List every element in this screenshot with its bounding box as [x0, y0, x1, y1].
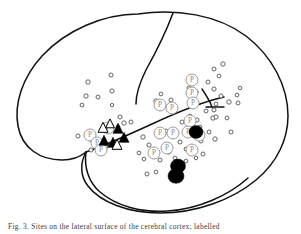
figure-container: PPPPPPPPPPPPPPPPP Fig. 3. Sites on the l…	[0, 0, 301, 234]
black-blob-marker	[189, 126, 203, 139]
brain-diagram: PPPPPPPPPPPPPPPPP	[0, 0, 301, 234]
figure-caption-block: Fig. 3. Sites on the lateral surface of …	[0, 222, 301, 234]
site-marker-circle	[158, 158, 162, 162]
site-marker-circle	[118, 115, 122, 119]
site-marker-circle	[86, 80, 90, 84]
site-marker-circle	[214, 102, 218, 106]
site-marker-circle	[221, 62, 225, 66]
site-marker-circle	[142, 157, 146, 161]
site-marker-circle	[154, 170, 158, 174]
site-marker-circle	[214, 115, 218, 119]
site-marker-circle	[207, 130, 211, 134]
site-marker-circle	[76, 134, 80, 138]
site-marker-circle	[217, 74, 221, 78]
site-marker-circle	[110, 103, 113, 106]
p-circle-label: P	[190, 146, 194, 154]
p-site-marker: P	[186, 144, 198, 156]
p-circle-label: P	[170, 104, 174, 112]
p-circle-label: P	[158, 101, 162, 109]
site-marker-circle	[89, 148, 93, 152]
site-marker-circle	[212, 87, 216, 91]
site-marker-circle	[213, 137, 217, 141]
site-marker-circle	[219, 94, 223, 98]
site-marker-circle	[227, 100, 231, 104]
p-circle-label: P	[158, 129, 162, 137]
site-marker-circle	[137, 151, 141, 155]
black-blob-marker	[168, 169, 184, 184]
site-marker-circle	[141, 135, 145, 139]
p-site-marker: P	[167, 127, 179, 139]
site-marker-circle	[110, 89, 114, 93]
p-circle-label: P	[99, 146, 103, 154]
p-site-marker: P	[161, 142, 173, 154]
p-site-marker: P	[184, 115, 196, 127]
site-marker-circle	[236, 101, 240, 105]
site-marker-circle	[178, 140, 182, 144]
p-circle-label: P	[165, 144, 169, 152]
site-marker-circle	[212, 67, 216, 71]
site-marker-circle	[147, 143, 151, 147]
site-marker-circle	[235, 93, 239, 97]
figure-caption-text: Fig. 3. Sites on the lateral surface of …	[0, 222, 301, 231]
site-marker-circle	[212, 108, 216, 112]
site-marker-circle	[201, 152, 205, 156]
site-marker-circle	[159, 92, 163, 96]
site-marker-circle	[204, 109, 208, 113]
p-site-marker: P	[187, 97, 199, 109]
p-circle-label: P	[190, 89, 194, 97]
site-marker-circle	[80, 103, 84, 107]
site-marker-circle	[129, 120, 133, 124]
site-marker-circle	[206, 80, 210, 84]
p-circle-label: P	[191, 99, 195, 107]
site-marker-circle	[180, 120, 184, 124]
p-circle-label: P	[188, 117, 192, 125]
site-marker-circle	[109, 73, 113, 77]
site-marker-circle	[96, 95, 100, 99]
p-site-marker: P	[154, 127, 166, 139]
site-marker-circle	[84, 94, 88, 98]
site-marker-circle	[225, 116, 229, 120]
site-marker-circle	[238, 86, 242, 90]
p-site-marker: P	[148, 147, 160, 159]
p-circle-label: P	[190, 76, 194, 84]
p-circle-label: P	[152, 149, 156, 157]
p-circle-label: P	[88, 131, 92, 139]
site-marker-circle	[229, 130, 233, 134]
p-site-marker: P	[95, 144, 107, 156]
site-marker-circle	[145, 172, 149, 176]
p-circle-label: P	[171, 129, 175, 137]
site-marker-circle	[169, 98, 173, 102]
site-marker-circle	[122, 121, 126, 125]
site-marker-circle	[194, 156, 198, 160]
p-site-marker: P	[154, 99, 166, 111]
brain-outline-path	[17, 12, 288, 213]
p-site-marker: P	[166, 102, 178, 114]
p-site-marker: P	[186, 74, 198, 86]
